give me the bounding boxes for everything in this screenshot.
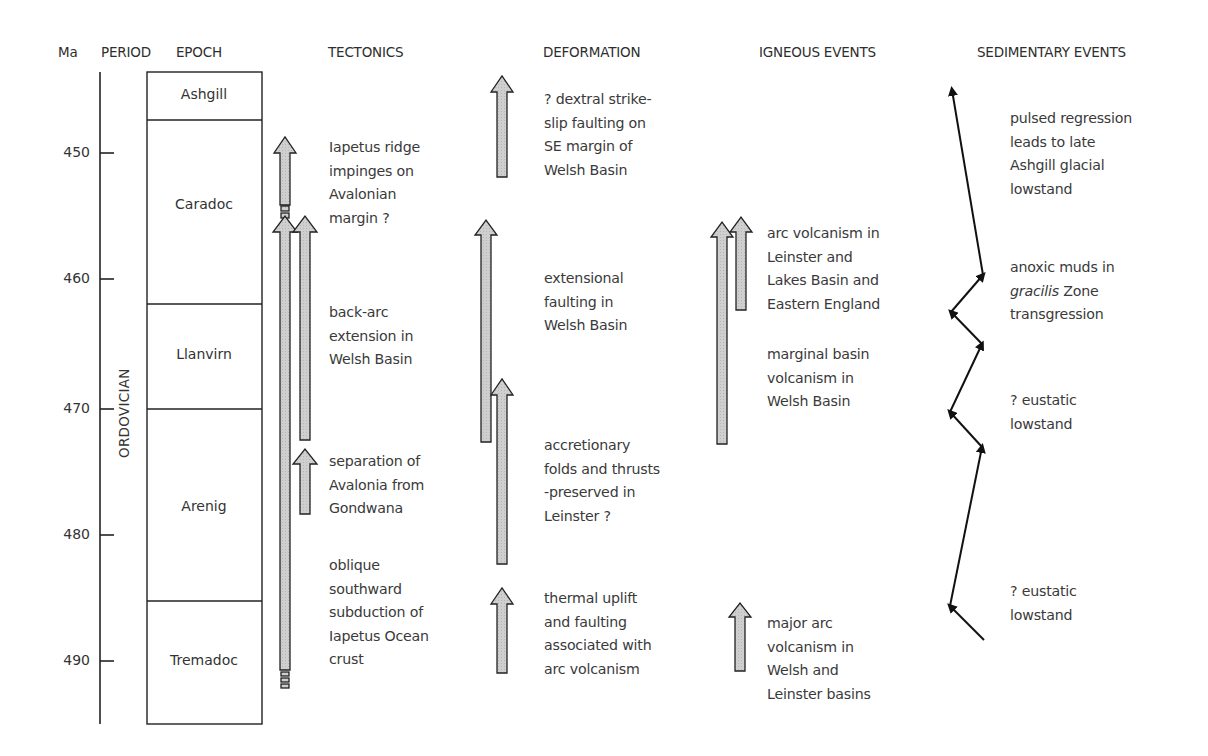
- deformation-arrows: [475, 76, 513, 673]
- deformation-note-accretionary: accretionary folds and thrusts -preserve…: [544, 434, 660, 528]
- tectonics-note-separation: separation of Avalonia from Gondwana: [329, 450, 424, 521]
- period-label: ORDOVICIAN: [116, 368, 132, 458]
- time-axis: [100, 72, 114, 724]
- igneous-note-marginal-basin: marginal basin volcanism in Welsh Basin: [767, 343, 869, 414]
- deformation-note-strike-slip: ? dextral strike- slip faulting on SE ma…: [544, 88, 651, 182]
- igneous-note-arc-volcanism: arc volcanism in Leinster and Lakes Basi…: [767, 222, 880, 316]
- tick-490: 490: [50, 652, 90, 668]
- sedimentary-note-pulsed-regression: pulsed regression leads to late Ashgill …: [1010, 107, 1132, 201]
- gracilis-italic: gracilis: [1010, 283, 1059, 299]
- tick-450: 450: [50, 144, 90, 160]
- epoch-llanvirn: Llanvirn: [146, 346, 262, 362]
- igneous-note-major-arc: major arc volcanism in Welsh and Leinste…: [767, 612, 871, 706]
- epoch-tremadoc: Tremadoc: [146, 652, 262, 668]
- anoxic-line: anoxic muds in: [1010, 259, 1114, 275]
- sedimentary-note-anoxic-muds: anoxic muds ingracilis Zone transgressio…: [1010, 256, 1114, 327]
- tectonics-note-iapetus-ridge: Iapetus ridge impinges on Avalonian marg…: [329, 136, 420, 230]
- epoch-ashgill: Ashgill: [146, 86, 262, 102]
- tectonics-arrows: [273, 137, 317, 688]
- sea-level-curve: [950, 90, 984, 640]
- tick-470: 470: [50, 400, 90, 416]
- tick-480: 480: [50, 526, 90, 542]
- igneous-arrows: [711, 217, 752, 671]
- tick-460: 460: [50, 270, 90, 286]
- sedimentary-note-eustatic-lowstand-lower: ? eustatic lowstand: [1010, 580, 1077, 627]
- deformation-note-thermal-uplift: thermal uplift and faulting associated w…: [544, 587, 652, 681]
- sedimentary-note-eustatic-lowstand-upper: ? eustatic lowstand: [1010, 389, 1077, 436]
- epoch-arenig: Arenig: [146, 498, 262, 514]
- tectonics-note-subduction: oblique southward subduction of Iapetus …: [329, 554, 429, 672]
- epoch-column: [147, 72, 262, 724]
- deformation-note-extensional: extensional faulting in Welsh Basin: [544, 267, 627, 338]
- epoch-caradoc: Caradoc: [146, 196, 262, 212]
- tectonics-note-back-arc: back-arc extension in Welsh Basin: [329, 301, 413, 372]
